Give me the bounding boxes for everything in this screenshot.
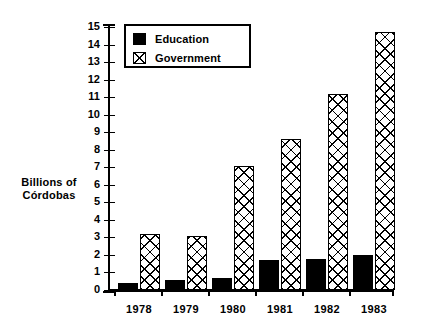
legend-item-education: Education bbox=[133, 30, 249, 47]
y-axis-tick-label: 12 bbox=[74, 74, 100, 85]
y-axis-tick-label: 7 bbox=[74, 161, 100, 172]
y-axis-tick-label: 6 bbox=[74, 179, 100, 190]
y-axis-tick-label: 3 bbox=[74, 231, 100, 242]
bar-government-1981 bbox=[281, 139, 301, 290]
bar-education-1983 bbox=[353, 255, 373, 290]
bar-education-1982 bbox=[306, 259, 326, 290]
legend-swatch-government-icon bbox=[133, 52, 146, 64]
x-axis-tick bbox=[255, 289, 257, 296]
bar-government-1983 bbox=[375, 32, 395, 290]
y-axis-tick-label: 5 bbox=[74, 196, 100, 207]
legend-swatch-education-icon bbox=[133, 33, 146, 45]
legend-label-government: Government bbox=[155, 52, 221, 64]
x-axis-tick bbox=[349, 289, 351, 296]
bar-education-1978 bbox=[118, 283, 138, 290]
x-axis-tick bbox=[302, 289, 304, 296]
y-axis-tick-label: 9 bbox=[74, 126, 100, 137]
bar-government-1978 bbox=[140, 234, 160, 290]
bar-education-1979 bbox=[165, 280, 185, 290]
bar-government-1979 bbox=[187, 236, 207, 290]
y-axis-tick-label: 1 bbox=[74, 266, 100, 277]
x-axis-label-1979: 1979 bbox=[161, 303, 211, 315]
y-axis-tick-label: 10 bbox=[74, 109, 100, 120]
x-axis-label-1981: 1981 bbox=[255, 303, 305, 315]
x-axis-label-1982: 1982 bbox=[302, 303, 352, 315]
bar-government-1980 bbox=[234, 166, 254, 290]
x-axis-label-1983: 1983 bbox=[349, 303, 399, 315]
x-axis-label-1978: 1978 bbox=[114, 303, 164, 315]
y-axis-tick-label: 8 bbox=[74, 144, 100, 155]
x-axis-tick bbox=[208, 289, 210, 296]
y-axis-tick-label: 13 bbox=[74, 56, 100, 67]
y-axis-tick-label: 2 bbox=[74, 249, 100, 260]
x-axis-end-tick bbox=[392, 289, 394, 296]
legend-label-education: Education bbox=[155, 33, 209, 45]
legend-item-government: Government bbox=[133, 49, 249, 66]
y-axis-tick-label: 15 bbox=[74, 21, 100, 32]
x-axis-tick bbox=[161, 289, 163, 296]
bar-chart: Billions of Córdobas 0123456789101112131… bbox=[0, 0, 425, 335]
bar-education-1981 bbox=[259, 260, 279, 290]
y-axis-tick-label: 4 bbox=[74, 214, 100, 225]
x-axis-tick bbox=[114, 289, 116, 296]
x-axis-label-1980: 1980 bbox=[208, 303, 258, 315]
y-axis-tick-label: 0 bbox=[74, 284, 100, 295]
legend: Education Government bbox=[124, 24, 251, 68]
bar-education-1980 bbox=[212, 278, 232, 290]
y-axis-tick-label: 11 bbox=[74, 91, 100, 102]
bar-government-1982 bbox=[328, 94, 348, 290]
y-axis-tick-label: 14 bbox=[74, 39, 100, 50]
y-axis-top-cap bbox=[103, 24, 115, 26]
